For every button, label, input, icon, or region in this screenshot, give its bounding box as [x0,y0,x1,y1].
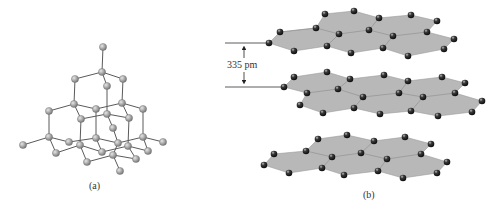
graphite-layer-bottom [261,132,451,182]
panel-a-caption: (a) [89,180,100,192]
graphite-layer-middle [281,69,486,120]
figure-canvas: (a) [0,0,500,209]
diamond-structure [19,43,166,174]
spacing-label: 335 pm [227,59,258,70]
diamond-atoms [19,43,166,174]
graphite-layer-top [266,8,458,60]
panel-b-caption: (b) [363,189,375,201]
layer-spacing-dimension: 335 pm [225,43,281,87]
